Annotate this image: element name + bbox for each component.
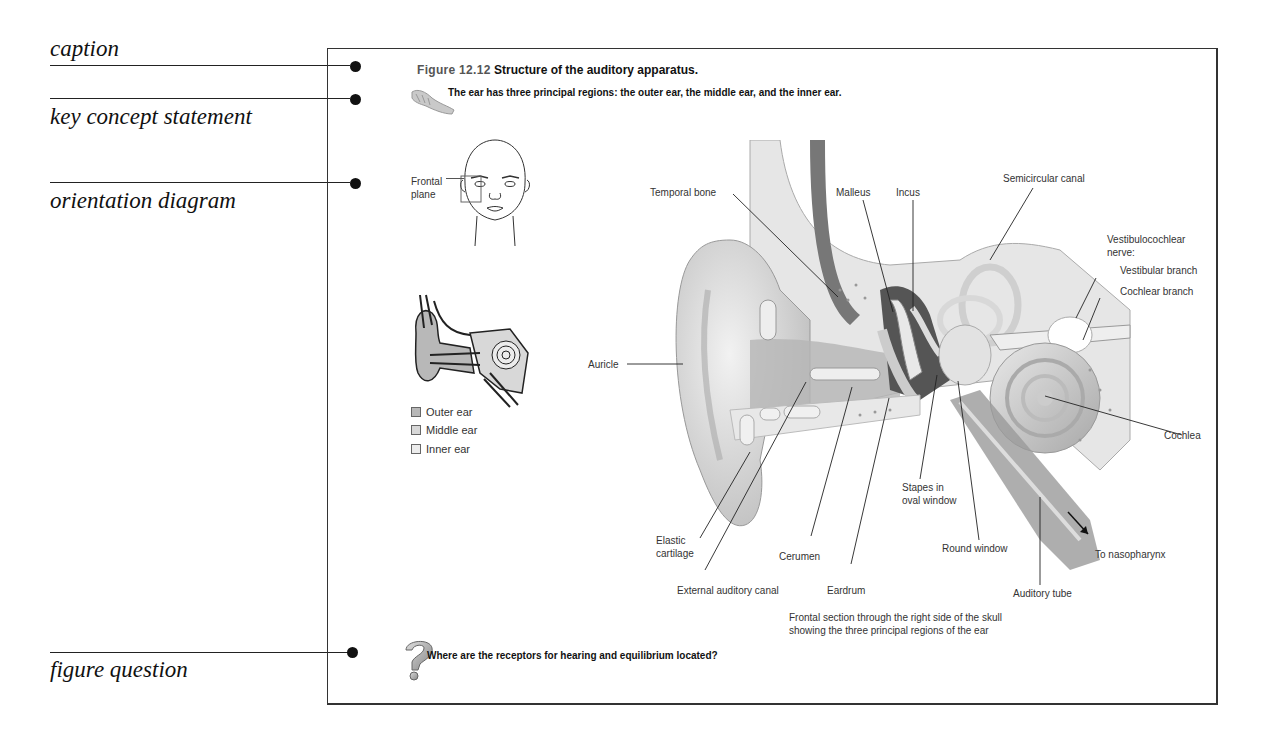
label-vestibulocochlear-nerve: Vestibulocochlear nerve:: [1107, 233, 1185, 259]
label-to-nasopharynx: To nasopharynx: [1095, 548, 1166, 561]
annotation-key-concept: key concept statement: [50, 104, 252, 130]
annotation-key-concept-line: [50, 98, 350, 99]
head-orientation-diagram: [455, 138, 535, 250]
label-auditory-tube: Auditory tube: [1013, 587, 1072, 600]
legend-middle-ear: Middle ear: [411, 424, 477, 436]
ear-regions-diagram: [410, 293, 530, 408]
label-auricle: Auricle: [588, 358, 619, 371]
annotation-orientation: orientation diagram: [50, 188, 236, 214]
label-external-auditory-canal: External auditory canal: [677, 584, 779, 597]
label-incus: Incus: [896, 186, 920, 199]
figure-title: Structure of the auditory apparatus.: [494, 63, 698, 77]
frontal-plane-leader: [446, 178, 464, 179]
annotation-caption: caption: [50, 36, 119, 62]
label-cerumen: Cerumen: [779, 550, 820, 563]
figure-question-text: Where are the receptors for hearing and …: [427, 650, 718, 661]
label-cochlear-branch: Cochlear branch: [1120, 285, 1193, 298]
label-malleus: Malleus: [836, 186, 870, 199]
figure-number: Figure 12.12: [417, 63, 491, 77]
annotation-caption-line: [50, 65, 350, 66]
annotation-orientation-line: [50, 182, 350, 183]
label-stapes: Stapes in oval window: [902, 481, 956, 507]
legend-outer-ear: Outer ear: [411, 406, 472, 418]
annotation-figure-question: figure question: [50, 657, 188, 683]
label-elastic-cartilage: Elastic cartilage: [656, 534, 694, 560]
key-concept-statement: The ear has three principal regions: the…: [448, 87, 841, 98]
label-vestibular-branch: Vestibular branch: [1120, 264, 1197, 277]
frontal-plane-label: Frontal plane: [411, 175, 442, 201]
label-cochlea: Cochlea: [1164, 429, 1201, 442]
legend-swatch-inner: [411, 444, 421, 454]
legend-swatch-outer: [411, 407, 421, 417]
figure-caption: Figure 12.12 Structure of the auditory a…: [417, 63, 698, 77]
label-round-window: Round window: [942, 542, 1008, 555]
label-eardrum: Eardrum: [827, 584, 865, 597]
label-temporal-bone: Temporal bone: [650, 186, 716, 199]
legend-swatch-middle: [411, 425, 421, 435]
label-semicircular-canal: Semicircular canal: [1003, 172, 1085, 185]
section-caption: Frontal section through the right side o…: [789, 611, 1002, 637]
legend-inner-ear: Inner ear: [411, 443, 470, 455]
annotation-figure-question-line: [50, 652, 350, 653]
